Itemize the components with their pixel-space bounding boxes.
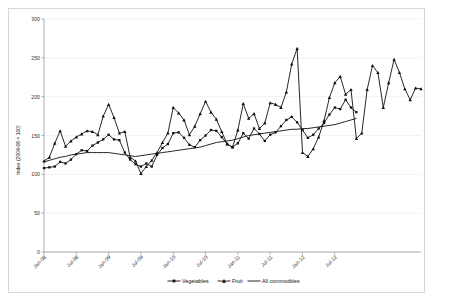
x-tick-label: Jan-12 [290, 254, 306, 270]
data-point-marker [53, 142, 56, 145]
y-tick-label: 200 [31, 94, 40, 100]
data-point-marker [210, 129, 212, 131]
data-point-marker [296, 121, 298, 123]
data-point-marker [328, 96, 331, 99]
data-point-marker [199, 139, 201, 141]
data-point-marker [97, 141, 99, 143]
data-point-marker [221, 136, 223, 138]
data-point-marker [48, 156, 51, 159]
y-tick-label: 250 [31, 55, 40, 61]
data-point-marker [339, 108, 341, 110]
data-point-marker [295, 47, 298, 50]
data-point-marker [112, 116, 115, 119]
data-point-marker [167, 143, 169, 145]
data-point-marker [263, 121, 266, 124]
data-point-marker [145, 162, 147, 164]
data-point-marker [365, 88, 368, 91]
data-point-marker [252, 112, 255, 115]
data-point-marker [236, 128, 239, 131]
data-point-marker [102, 138, 104, 140]
data-point-marker [209, 111, 212, 114]
data-point-marker [403, 87, 406, 90]
data-point-marker [58, 129, 61, 132]
data-point-marker [107, 134, 109, 136]
data-point-marker [151, 165, 153, 167]
data-point-marker [59, 161, 61, 163]
data-point-marker [204, 134, 206, 136]
data-point-marker [355, 111, 357, 113]
data-point-marker [166, 131, 169, 134]
y-tick-label: 100 [31, 171, 40, 177]
data-point-marker [161, 147, 163, 149]
data-point-marker [328, 113, 330, 115]
data-point-marker [307, 137, 309, 139]
y-axis-title: Index (2004-06 = 100) [15, 125, 21, 175]
data-point-marker [285, 119, 287, 121]
data-point-marker [242, 102, 245, 105]
data-point-marker [387, 81, 390, 84]
data-point-marker [350, 106, 352, 108]
y-tick-label: 150 [31, 133, 40, 139]
data-point-marker [285, 90, 288, 93]
data-point-marker [312, 134, 314, 136]
data-point-marker [64, 162, 66, 164]
legend-label: All commodities [262, 278, 300, 284]
data-point-marker [253, 127, 255, 129]
data-point-marker [264, 140, 266, 142]
data-point-marker [360, 131, 363, 134]
data-point-marker [91, 144, 93, 146]
x-tick-label: Jan-08 [32, 254, 48, 270]
data-point-marker [81, 149, 83, 151]
x-tick-label: Jul-12 [324, 254, 338, 268]
data-point-marker [102, 114, 105, 117]
x-tick-label: Jul-09 [130, 254, 144, 268]
x-axis: Jan-08Jul-08Jan-09Jul-09Jan-10Jul-10Jan-… [32, 252, 421, 269]
data-point-marker [183, 137, 185, 139]
data-point-marker [123, 130, 126, 133]
data-point-marker [140, 165, 142, 167]
data-point-marker [204, 100, 207, 103]
data-point-marker [280, 125, 282, 127]
legend-label: Vegetables [182, 278, 209, 284]
data-point-marker [215, 130, 217, 132]
gridlines [44, 19, 421, 252]
data-point-marker [172, 106, 175, 109]
data-point-marker [43, 167, 45, 169]
data-point-marker [107, 103, 110, 106]
chart-legend: VegetablesFruitAll commodities [168, 278, 301, 284]
y-tick-label: 300 [31, 16, 40, 22]
data-point-marker [86, 150, 88, 152]
data-point-marker [237, 142, 239, 144]
data-point-marker [172, 132, 174, 134]
x-tick-label: Jan-10 [161, 254, 177, 270]
data-point-marker [312, 147, 315, 150]
chart-figure: 050100150200250300 Jan-08Jul-08Jan-09Jul… [0, 0, 449, 304]
data-point-marker [188, 144, 190, 146]
x-tick-label: Jul-10 [195, 254, 209, 268]
data-point-marker [248, 137, 250, 139]
data-point-marker [177, 131, 179, 133]
x-tick-label: Jan-11 [226, 254, 241, 269]
data-point-marker [242, 132, 244, 134]
data-point-marker [339, 75, 342, 78]
data-point-marker [301, 151, 304, 154]
y-tick-label: 0 [37, 249, 40, 255]
data-point-marker [124, 151, 126, 153]
data-point-marker [118, 139, 120, 141]
data-point-marker [48, 166, 50, 168]
data-point-marker [334, 106, 336, 108]
data-point-marker [269, 101, 272, 104]
data-point-marker [113, 138, 115, 140]
data-point-marker [371, 64, 374, 67]
data-series [42, 47, 422, 175]
y-tick-label: 50 [34, 210, 40, 216]
y-axis: 050100150200250300 [31, 16, 44, 255]
data-point-marker [409, 98, 412, 101]
data-point-marker [279, 106, 282, 109]
data-point-marker [382, 106, 385, 109]
data-point-marker [54, 165, 56, 167]
series-line-fruit [44, 49, 421, 174]
x-tick-label: Jul-11 [259, 254, 273, 268]
data-point-marker [70, 158, 72, 160]
data-point-marker [129, 158, 131, 160]
